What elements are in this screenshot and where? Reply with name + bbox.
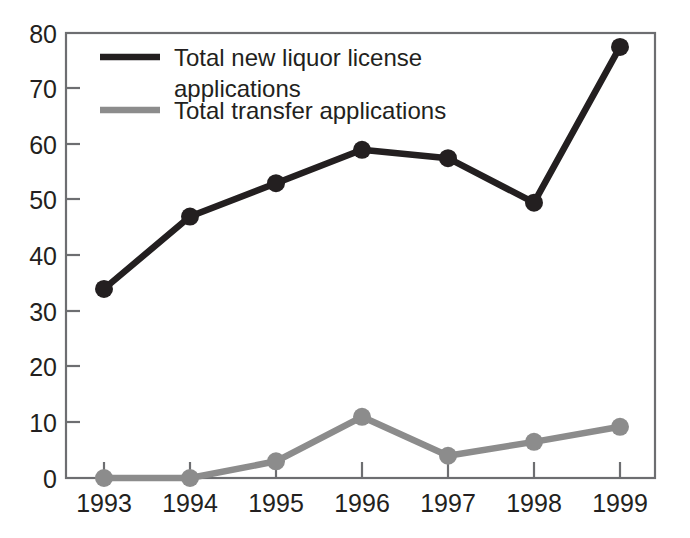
chart-figure: 80 70 60 50 40 30 20 10 0 1993 1994 1995…: [0, 0, 690, 538]
y-axis-label-40: 40: [29, 242, 57, 270]
y-axis-label-30: 30: [29, 298, 57, 326]
data-point-total-new-liquor-license-applications-1999: [611, 38, 629, 56]
data-point-total-transfer-applications-1997: [439, 447, 457, 465]
y-axis-label-50: 50: [29, 186, 57, 214]
x-axis-label-1996: 1996: [334, 489, 390, 517]
data-point-total-transfer-applications-1998: [525, 433, 543, 451]
x-axis-label-1998: 1998: [506, 489, 562, 517]
data-point-total-new-liquor-license-applications-1998: [525, 194, 543, 212]
data-point-total-transfer-applications-1999: [611, 418, 629, 436]
x-axis-label-1994: 1994: [162, 489, 218, 517]
x-axis-label-1999: 1999: [592, 489, 648, 517]
x-axis-label-1997: 1997: [420, 489, 476, 517]
legend-label-new-liquor-license-line1: Total new liquor license: [174, 44, 422, 71]
chart-background: [0, 0, 690, 538]
data-point-total-new-liquor-license-applications-1995: [267, 174, 285, 192]
data-point-total-transfer-applications-1993: [95, 469, 113, 487]
line-chart-svg: 80 70 60 50 40 30 20 10 0 1993 1994 1995…: [0, 0, 690, 538]
y-axis-tick-labels: 80 70 60 50 40 30 20 10 0: [29, 20, 57, 493]
y-axis-label-70: 70: [29, 75, 57, 103]
legend-label-transfer-applications: Total transfer applications: [174, 97, 446, 124]
data-point-total-new-liquor-license-applications-1994: [181, 208, 199, 226]
data-point-total-transfer-applications-1995: [267, 452, 285, 470]
y-axis-label-0: 0: [43, 465, 57, 493]
data-point-total-transfer-applications-1994: [181, 469, 199, 487]
data-point-total-new-liquor-license-applications-1996: [353, 141, 371, 159]
y-axis-label-80: 80: [29, 20, 57, 48]
y-axis-label-10: 10: [29, 409, 57, 437]
data-point-total-transfer-applications-1996: [353, 408, 371, 426]
y-axis-label-20: 20: [29, 353, 57, 381]
x-axis-label-1995: 1995: [248, 489, 304, 517]
x-axis-label-1993: 1993: [76, 489, 132, 517]
data-point-total-new-liquor-license-applications-1997: [439, 149, 457, 167]
data-point-total-new-liquor-license-applications-1993: [95, 280, 113, 298]
y-axis-label-60: 60: [29, 131, 57, 159]
